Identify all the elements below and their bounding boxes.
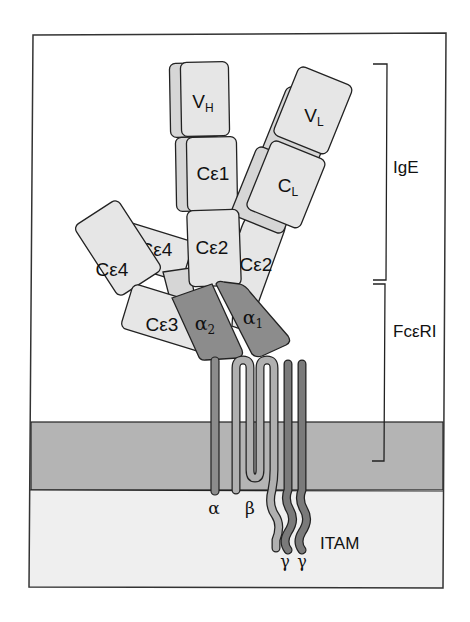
label-ige: IgE xyxy=(393,158,419,177)
svg-text:Cε4: Cε4 xyxy=(96,259,129,280)
svg-text:Cε1: Cε1 xyxy=(197,163,230,184)
label-alpha-chain: α xyxy=(208,498,220,518)
label-gamma-chain-2: γ xyxy=(297,552,307,571)
ige-fceri-diagram: Cε4 Cε4 Cε3 Cε2 VH Cε1 VL CL Cε2 xyxy=(0,0,470,622)
domain-vh: VH xyxy=(169,62,229,138)
label-itam: ITAM xyxy=(320,534,359,553)
domain-ce2-center: Cε2 xyxy=(187,209,242,287)
domain-ce1: Cε1 xyxy=(175,137,237,212)
label-fceri: FcεRI xyxy=(393,322,436,341)
svg-text:Cε3: Cε3 xyxy=(146,314,179,335)
svg-text:Cε2: Cε2 xyxy=(240,254,273,275)
alpha-chain-transmembrane xyxy=(211,357,219,495)
label-gamma-chain-1: γ xyxy=(280,552,290,571)
label-beta-chain: β xyxy=(245,498,255,518)
svg-text:Cε2: Cε2 xyxy=(196,237,229,258)
cytoplasm-region xyxy=(29,490,443,588)
